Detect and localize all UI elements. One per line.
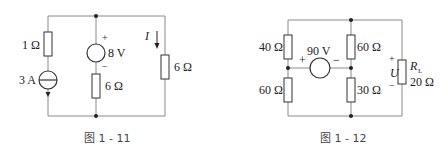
resistor-1ohm xyxy=(44,32,52,56)
current-i-arrowhead-icon xyxy=(155,43,160,49)
label-rl: R xyxy=(409,59,418,73)
junction-dot xyxy=(349,114,353,118)
label-u-minus: − xyxy=(389,80,395,91)
voltage-source-icon xyxy=(87,44,105,62)
label-r-top-mid: 60 Ω xyxy=(357,40,381,54)
figure-1-12: 40 Ω 60 Ω + − 90 V 60 Ω 30 Ω + U − R L 2… xyxy=(259,18,434,145)
caption-figure-1-11: 图 1 - 11 xyxy=(84,132,130,145)
current-source-icon xyxy=(39,71,57,89)
figure-1-11: 1 Ω 3 A + − 8 V 6 Ω I 6 Ω 图 1 - 11 xyxy=(19,14,192,145)
junction-dot xyxy=(94,14,98,18)
label-vs-minus: − xyxy=(333,53,340,67)
caption-figure-1-12: 图 1 - 12 xyxy=(320,132,366,145)
voltage-source-icon xyxy=(310,58,330,78)
resistor-6ohm-right xyxy=(161,55,169,79)
label-rl-sub: L xyxy=(418,67,422,75)
junction-dot xyxy=(349,66,353,70)
junction-dot xyxy=(349,18,353,22)
resistor-6ohm-middle xyxy=(92,74,100,98)
label-voltage-source: 8 V xyxy=(108,46,126,60)
label-r-top-left: 40 Ω xyxy=(259,40,283,54)
label-vs-plus: + xyxy=(102,32,108,43)
label-u: U xyxy=(390,66,400,80)
label-u-plus: + xyxy=(389,53,395,64)
label-r-right: 6 Ω xyxy=(174,60,192,74)
label-r-left: 1 Ω xyxy=(22,38,40,52)
label-voltage-source: 90 V xyxy=(307,44,331,58)
label-current-source: 3 A xyxy=(19,73,36,87)
label-current-i: I xyxy=(144,29,150,43)
resistor-60ohm-top-mid xyxy=(347,35,355,59)
resistor-60ohm-bottom-left xyxy=(284,78,292,102)
resistor-40ohm xyxy=(284,35,292,59)
label-vs-minus: − xyxy=(102,61,108,72)
circuit-diagrams: 1 Ω 3 A + − 8 V 6 Ω I 6 Ω 图 1 - 11 xyxy=(0,0,448,155)
label-vs-plus: + xyxy=(299,53,306,67)
label-rl-value: 20 Ω xyxy=(410,75,434,89)
junction-dot xyxy=(94,114,98,118)
resistor-rl xyxy=(398,60,406,84)
label-r-mid: 6 Ω xyxy=(105,79,123,93)
current-direction-arrow-icon xyxy=(46,92,51,97)
label-r-bottom-mid: 30 Ω xyxy=(357,83,381,97)
label-r-bottom-left: 60 Ω xyxy=(259,83,283,97)
resistor-30ohm xyxy=(347,78,355,102)
junction-dot xyxy=(286,66,290,70)
